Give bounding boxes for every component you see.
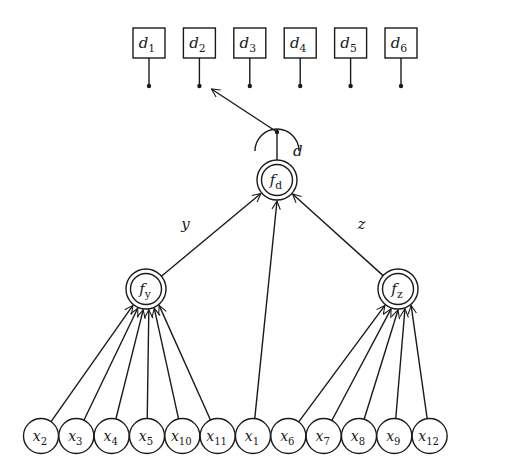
edge-x12-to-fz [411, 305, 427, 418]
edge-fz-to-fd [293, 194, 384, 276]
input-label-x3-subscript: 3 [76, 436, 82, 447]
nodes-layer: d1d2d3d4d5d6x2x3x4x5x10x11x1x6x7x8x9x12f… [24, 28, 448, 454]
input-label-x7-base: x [315, 428, 323, 444]
edge-x9-to-fz [396, 309, 405, 419]
input-label-x6-subscript: 6 [288, 436, 294, 447]
input-label-x2-base: x [33, 428, 41, 444]
input-label-x4-subscript: 4 [111, 436, 117, 447]
input-node-x5: x5 [129, 419, 164, 454]
decision-label-d3-subscript: 3 [249, 42, 256, 55]
input-label-x5-base: x [139, 428, 147, 444]
decision-terminal-dot [399, 84, 403, 88]
input-label-x11-subscript: 11 [214, 436, 227, 447]
decision-label-d1-base: d [139, 34, 149, 52]
input-label-x12-subscript: 12 [426, 436, 439, 447]
input-label-x10-subscript: 10 [179, 436, 192, 447]
decision-label-d1-subscript: 1 [148, 42, 155, 55]
decision-label-d6-base: d [391, 34, 401, 52]
input-node-x12: x12 [412, 419, 447, 454]
decision-terminal-dot [197, 84, 201, 88]
input-label-x1-subscript: 1 [253, 436, 259, 447]
input-label-x8-subscript: 8 [359, 436, 365, 447]
input-node-x7: x7 [306, 419, 341, 454]
decision-box-d3: d3 [234, 28, 266, 88]
function-label-fz-subscript: z [397, 288, 403, 301]
decision-terminal-dot [248, 84, 252, 88]
selector-arrow [211, 89, 277, 132]
decision-terminal-dot [298, 84, 302, 88]
decision-box-d5: d5 [335, 28, 367, 88]
input-label-x8-base: x [351, 428, 359, 444]
input-label-x5-subscript: 5 [147, 436, 153, 447]
edge-x6-to-fz [299, 305, 385, 422]
function-node-fz: fz [378, 269, 418, 309]
edge-fy-to-fd [161, 193, 260, 276]
input-label-x2-subscript: 2 [41, 436, 47, 447]
input-label-x6-base: x [280, 428, 288, 444]
input-label-x11-base: x [206, 428, 214, 444]
function-label-fd-subscript: d [275, 179, 282, 192]
edges-layer [51, 89, 427, 422]
input-label-x10-base: x [171, 428, 179, 444]
decision-box-d2: d2 [183, 28, 215, 88]
edge-x1-to-fd [255, 201, 277, 419]
input-node-x1: x1 [235, 419, 270, 454]
selector-output-label: d [293, 142, 303, 160]
decision-label-d4-base: d [290, 34, 300, 52]
input-label-x4-base: x [103, 428, 111, 444]
decision-label-d2-base: d [189, 34, 199, 52]
input-label-x1-base: x [245, 428, 253, 444]
input-node-x8: x8 [341, 419, 376, 454]
decision-label-d6-subscript: 6 [400, 42, 407, 55]
input-node-x3: x3 [59, 419, 94, 454]
decision-terminal-dot [348, 84, 352, 88]
decision-terminal-dot [147, 84, 151, 88]
function-label-fy-subscript: y [144, 288, 152, 301]
selector-switch [211, 89, 299, 160]
input-label-x9-base: x [386, 428, 394, 444]
input-label-x7-subscript: 7 [323, 436, 329, 447]
edge-label-z: z [357, 215, 366, 233]
function-node-fy: fy [126, 269, 166, 309]
edge-label-y: y [180, 215, 190, 233]
edge-x10-to-fy [154, 308, 178, 419]
decision-network-diagram: d1d2d3d4d5d6x2x3x4x5x10x11x1x6x7x8x9x12f… [0, 0, 506, 475]
decision-label-d3-base: d [240, 34, 250, 52]
input-node-x6: x6 [271, 419, 306, 454]
decision-label-d2-subscript: 2 [199, 42, 206, 55]
input-node-x4: x4 [94, 419, 129, 454]
decision-box-d6: d6 [385, 28, 417, 88]
decision-box-d1: d1 [133, 28, 165, 88]
input-label-x9-subscript: 9 [394, 436, 400, 447]
input-label-x3-base: x [68, 428, 76, 444]
input-node-x2: x2 [24, 419, 59, 454]
input-node-x10: x10 [165, 419, 200, 454]
function-node-fd: fd [257, 160, 297, 200]
input-node-x9: x9 [377, 419, 412, 454]
input-label-x12-base: x [418, 428, 426, 444]
edge-x5-to-fy [147, 310, 149, 419]
decision-label-d4-subscript: 4 [300, 42, 307, 55]
decision-label-d5-subscript: 5 [350, 42, 357, 55]
decision-label-d5-base: d [340, 34, 350, 52]
decision-box-d4: d4 [284, 28, 316, 88]
input-node-x11: x11 [200, 419, 235, 454]
